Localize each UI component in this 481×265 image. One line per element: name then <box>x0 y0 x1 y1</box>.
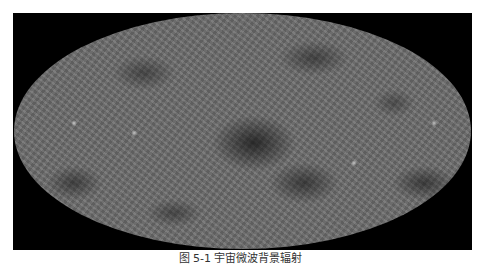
figure-frame <box>13 13 472 250</box>
figure-caption: 图 5-1 宇宙微波背景辐射 <box>0 253 481 265</box>
cmb-sky-map <box>14 13 471 249</box>
